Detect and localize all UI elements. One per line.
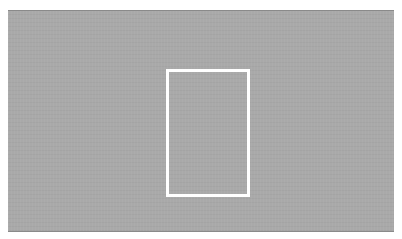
white-rectangle-outline <box>166 69 250 197</box>
gray-canvas <box>8 10 394 232</box>
